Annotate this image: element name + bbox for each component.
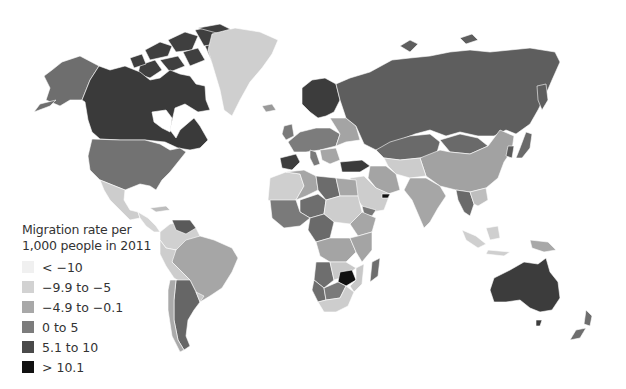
region-india (404, 178, 446, 228)
legend-label: < −10 (42, 260, 83, 275)
region-spain (280, 154, 300, 170)
legend-item: −4.9 to −0.1 (22, 297, 172, 317)
map-legend: Migration rate per 1,000 people in 2011 … (22, 222, 172, 377)
legend-label: 5.1 to 10 (42, 340, 98, 355)
region-scandinavia (302, 78, 340, 118)
legend-swatch (22, 261, 34, 273)
region-egypt (336, 178, 358, 196)
region-turkey (340, 160, 370, 172)
legend-title-line-1: Migration rate per (22, 222, 172, 238)
legend-item: > 10.1 (22, 357, 172, 377)
region-canada (82, 66, 210, 150)
region-balkans (320, 148, 340, 164)
region-congo (316, 238, 356, 262)
region-japan (516, 132, 532, 158)
legend-item: 5.1 to 10 (22, 337, 172, 357)
legend-label: 0 to 5 (42, 320, 78, 335)
legend-swatch (22, 281, 34, 293)
legend-item: −9.9 to −5 (22, 277, 172, 297)
region-greenland (208, 28, 278, 116)
legend-label: −9.9 to −5 (42, 280, 111, 295)
legend-title-line-2: 1,000 people in 2011 (22, 238, 172, 254)
region-uk (282, 124, 294, 140)
legend-item: 0 to 5 (22, 317, 172, 337)
legend-swatch (22, 301, 34, 313)
legend-swatch (22, 341, 34, 353)
region-new-zealand (584, 310, 592, 326)
region-madagascar (370, 258, 380, 282)
region-australia (490, 258, 560, 312)
legend-label: > 10.1 (42, 360, 84, 375)
legend-swatch (22, 321, 34, 333)
legend-title: Migration rate per 1,000 people in 2011 (22, 222, 172, 254)
region-indonesia (462, 230, 486, 248)
legend-item: < −10 (22, 257, 172, 277)
legend-label: −4.9 to −0.1 (42, 300, 123, 315)
legend-swatch (22, 361, 34, 373)
region-italy (310, 150, 320, 166)
